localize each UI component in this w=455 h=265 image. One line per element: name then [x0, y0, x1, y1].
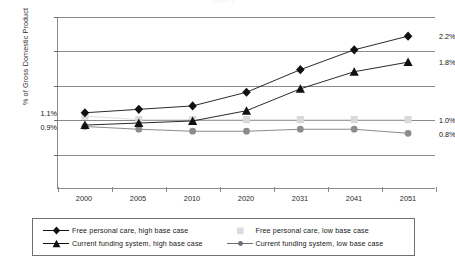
- data-value-label: 0.8%: [436, 129, 455, 138]
- series-line: [85, 36, 408, 113]
- data-point: [350, 45, 359, 54]
- data-point: [404, 32, 413, 41]
- data-point: [296, 84, 305, 93]
- data-point: [242, 88, 251, 97]
- legend-item-free-personal-care-high[interactable]: Free personal care, high base case: [43, 226, 227, 235]
- square-marker-icon: [227, 226, 253, 235]
- data-point: [243, 128, 250, 135]
- x-axis-tick-label: 2005: [108, 194, 168, 203]
- series-layer: [58, 17, 435, 188]
- x-axis-tick-label: 2020: [216, 194, 276, 203]
- legend-item-current-funding-low[interactable]: Current funding system, low base case: [227, 239, 411, 248]
- x-axis-tick-label: 2010: [162, 194, 222, 203]
- triangle-marker-icon: [43, 239, 69, 248]
- legend-label: Current funding system, low base case: [256, 240, 384, 248]
- data-point: [405, 130, 412, 137]
- legend-item-current-funding-high[interactable]: Current funding system, high base case: [43, 239, 227, 248]
- data-value-label: 1.8%: [436, 58, 455, 67]
- data-value-label: 0.9%: [41, 123, 59, 132]
- data-point: [189, 128, 196, 135]
- chart-title: Chart 4: [0, 0, 447, 4]
- data-point: [296, 65, 305, 74]
- legend-label: Free personal care, high base case: [72, 227, 188, 235]
- data-point: [403, 58, 412, 67]
- data-point: [404, 116, 411, 123]
- x-axis-tick-label: 2000: [54, 194, 114, 203]
- data-point: [134, 105, 143, 114]
- legend-item-free-personal-care-low[interactable]: Free personal care, low base case: [227, 226, 411, 235]
- y-axis-title: % of Gross Domestic Product: [21, 0, 30, 137]
- x-axis-tick-label: 2041: [324, 194, 384, 203]
- data-point: [297, 116, 304, 123]
- circle-marker-icon: [227, 239, 253, 248]
- data-point: [351, 126, 358, 133]
- data-value-label: 2.2%: [436, 32, 455, 41]
- x-axis-tick-label: 2051: [378, 194, 438, 203]
- data-point: [351, 116, 358, 123]
- legend-label: Current funding system, high base case: [72, 240, 203, 248]
- x-axis-tick: [436, 187, 437, 192]
- diamond-marker-icon: [43, 226, 69, 235]
- chart-legend: Free personal care, high base case Free …: [32, 218, 415, 256]
- plot-area: [57, 17, 435, 189]
- data-value-label: 1.0%: [436, 116, 455, 125]
- data-point: [188, 101, 197, 110]
- data-point: [243, 116, 250, 123]
- legend-label: Free personal care, low base case: [256, 227, 369, 235]
- x-axis-tick-label: 2031: [270, 194, 330, 203]
- data-value-label: 1.1%: [41, 109, 59, 118]
- data-point: [242, 106, 251, 115]
- data-point: [297, 126, 304, 133]
